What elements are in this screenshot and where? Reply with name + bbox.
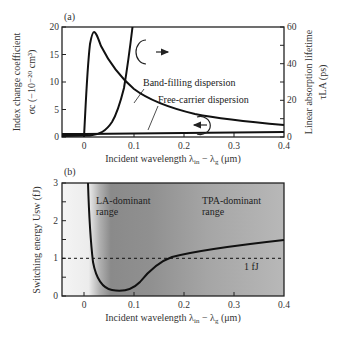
svg-text:40: 40 xyxy=(287,59,297,69)
panel-b-label: (b) xyxy=(64,166,76,178)
arrow-to-left-axis xyxy=(194,117,210,135)
panel-a-label: (a) xyxy=(64,11,75,23)
band-filling-label: Band-filling dispersion xyxy=(143,77,236,88)
svg-text:0.4: 0.4 xyxy=(278,300,290,310)
b-x-axis-label: Incident wavelength λin − λg (μm) xyxy=(105,312,240,325)
a-y-axis-label-right-line1: Linear absorption lifetime xyxy=(303,29,314,134)
a-x-tick-labels: 0 0.1 0.2 0.3 0.4 xyxy=(82,141,291,151)
b-x-tick-labels: 0 0.1 0.2 0.3 0.4 xyxy=(82,300,291,310)
svg-text:5: 5 xyxy=(54,105,59,115)
arrow-to-right-axis xyxy=(136,40,168,64)
figure: (a) 0 5 10 15 20 0 xyxy=(0,0,343,339)
svg-text:1: 1 xyxy=(53,253,58,263)
one-fj-label: 1 fJ xyxy=(244,261,259,272)
a-right-tick-labels: 0 20 40 60 xyxy=(287,22,297,142)
svg-text:0.4: 0.4 xyxy=(278,141,290,151)
svg-text:0.2: 0.2 xyxy=(178,141,190,151)
svg-text:0.3: 0.3 xyxy=(228,141,240,151)
svg-text:20: 20 xyxy=(287,95,297,105)
svg-text:20: 20 xyxy=(50,22,60,32)
svg-text:2: 2 xyxy=(53,216,58,226)
svg-text:0: 0 xyxy=(82,141,87,151)
tpa-dominant-label-line2: range xyxy=(202,206,225,217)
svg-text:0: 0 xyxy=(54,132,59,142)
a-left-tick-labels: 0 5 10 15 20 xyxy=(50,22,60,142)
a-y-axis-label-right-line2: τLA (ps) xyxy=(317,65,329,100)
la-dominant-label-line1: LA-dominant xyxy=(96,195,151,206)
svg-text:0.2: 0.2 xyxy=(178,300,190,310)
b-y-axis-label: Switching energy Usw (fJ) xyxy=(31,186,43,293)
panel-a: (a) 0 5 10 15 20 0 xyxy=(11,11,329,166)
lifetime-curve xyxy=(62,27,133,136)
svg-text:0: 0 xyxy=(82,300,87,310)
svg-text:10: 10 xyxy=(50,77,60,87)
b-y-tick-labels: 0 1 2 3 xyxy=(53,178,58,301)
a-y-axis-label-left-line2: σc (−10⁻²⁰ cm³) xyxy=(26,50,38,115)
svg-text:60: 60 xyxy=(287,22,297,32)
free-carrier-leader xyxy=(148,106,158,130)
panel-b: (b) 0 1 2 3 0 0.1 xyxy=(31,166,290,325)
svg-text:0.1: 0.1 xyxy=(128,300,140,310)
la-dominant-label-line2: range xyxy=(96,206,119,217)
tpa-dominant-label-line1: TPA-dominant xyxy=(202,195,261,206)
a-y-axis-label-left-line1: Index change coefficient xyxy=(11,32,22,131)
a-x-axis-label: Incident wavelength λin − λg (μm) xyxy=(105,153,240,166)
svg-text:15: 15 xyxy=(50,50,60,60)
svg-text:0.3: 0.3 xyxy=(228,300,240,310)
svg-text:3: 3 xyxy=(53,178,58,188)
free-carrier-label: Free-carrier dispersion xyxy=(158,94,249,105)
svg-text:0: 0 xyxy=(53,291,58,301)
svg-text:0.1: 0.1 xyxy=(128,141,140,151)
